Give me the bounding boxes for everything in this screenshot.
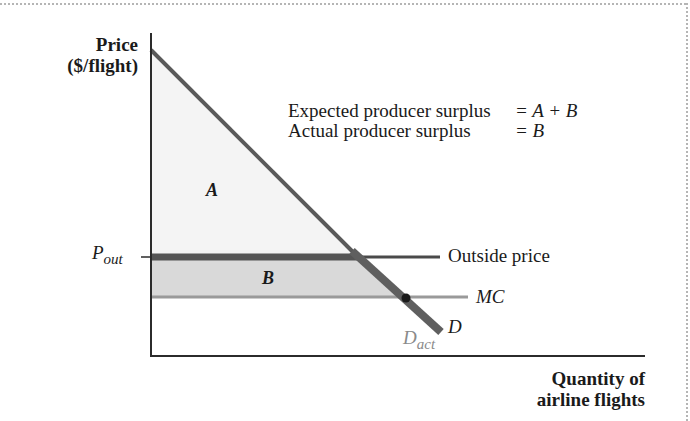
legend-actual-row: Actual producer surplus = B: [288, 121, 577, 141]
demand-label: D: [448, 316, 462, 338]
legend-expected-value: = A + B: [515, 101, 577, 121]
y-axis-title-line1: Price: [40, 34, 138, 55]
mc-label: MC: [476, 286, 505, 308]
pout-label-sub: out: [104, 251, 123, 267]
intersection-dot: [402, 294, 411, 303]
x-axis-title: Quantity of airline flights: [480, 368, 645, 410]
outside-price-label: Outside price: [448, 245, 550, 267]
region-b-label: B: [262, 268, 274, 289]
dact-label-main: D: [403, 327, 417, 348]
legend-expected-row: Expected producer surplus = A + B: [288, 101, 577, 121]
y-axis-title-line2: ($/flight): [40, 55, 138, 76]
x-axis-title-line2: airline flights: [480, 389, 645, 410]
region-a-label: A: [206, 180, 218, 201]
actual-demand-label: Dact: [403, 327, 435, 353]
surplus-legend: Expected producer surplus = A + B Actual…: [288, 101, 577, 141]
x-axis-title-line1: Quantity of: [480, 368, 645, 389]
pout-label: Pout: [92, 242, 123, 268]
legend-expected-label: Expected producer surplus: [288, 101, 515, 121]
legend-actual-label: Actual producer surplus: [288, 121, 515, 141]
dact-label-sub: act: [417, 336, 435, 352]
pout-label-main: P: [92, 242, 104, 263]
y-axis-title: Price ($/flight): [40, 34, 138, 76]
legend-actual-value: = B: [515, 121, 544, 141]
